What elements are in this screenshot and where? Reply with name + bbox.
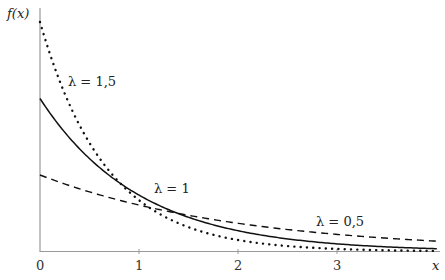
annotation-lambda-1-5: λ = 1,5 (68, 74, 116, 89)
x-tick-label-0: 0 (36, 258, 44, 273)
annotation-lambda-0-5: λ = 0,5 (316, 214, 364, 229)
x-tick-label-3: 3 (333, 258, 341, 273)
y-axis-label: f(x) (6, 6, 29, 21)
curve-lambda-1-5 (40, 22, 437, 251)
x-axis-label: x (432, 258, 440, 273)
annotation-lambda-1: λ = 1 (154, 181, 190, 196)
curve-lambda-1 (40, 99, 437, 249)
x-tick-label-2: 2 (234, 258, 242, 273)
exponential-density-chart: f(x) x 0 1 2 3 λ = 1,5 λ = 1 λ = 0,5 (0, 0, 445, 280)
x-tick-label-1: 1 (135, 258, 143, 273)
